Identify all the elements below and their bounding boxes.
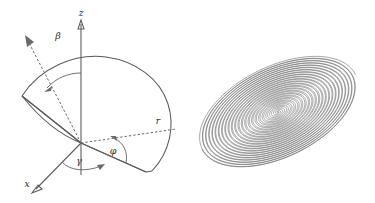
x-axis-arrowhead xyxy=(32,185,42,193)
spherical-sector-diagram: z x r β γ φ xyxy=(0,0,188,203)
x-axis-line xyxy=(36,143,81,189)
radius-label: r xyxy=(156,116,161,126)
gamma-angle-label: γ xyxy=(76,155,82,166)
spiral-torus-diagram xyxy=(188,0,375,203)
radius-line xyxy=(81,129,176,143)
sector-edge-bottom-left xyxy=(22,96,81,143)
beta-angle-arc xyxy=(47,73,81,88)
beta-angle-label: β xyxy=(54,30,61,41)
beta-direction-arrowhead xyxy=(25,35,34,47)
spiral-windings xyxy=(200,56,356,166)
sector-edge-right xyxy=(146,171,152,172)
x-axis-label: x xyxy=(24,179,29,189)
phi-arc-arrowhead xyxy=(110,136,117,141)
phi-angle-label: φ xyxy=(110,145,117,156)
z-axis-label: z xyxy=(78,8,84,18)
figure-container: z x r β γ φ xyxy=(0,0,375,203)
